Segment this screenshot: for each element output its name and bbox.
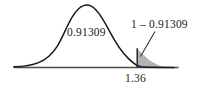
right-area-label: 1 – 0.91309: [131, 19, 188, 31]
normal-distribution-figure: 0.91309 1 – 0.91309 1.36: [0, 0, 206, 93]
z-value-label: 1.36: [125, 73, 146, 85]
bell-curve-diagram: [0, 0, 206, 93]
right-tail-shaded-region: [137, 49, 174, 68]
right-area-leader-line: [141, 32, 156, 57]
left-area-label: 0.91309: [67, 27, 106, 39]
